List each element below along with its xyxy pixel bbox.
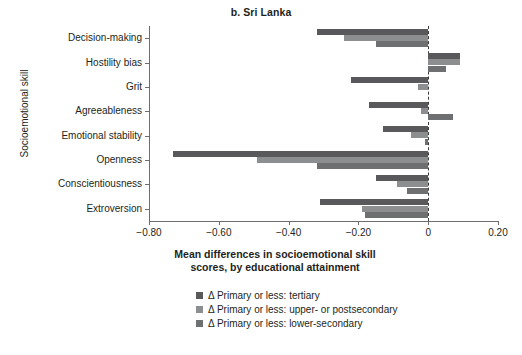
y-axis-tick [145, 38, 149, 39]
x-axis-tick-label: 0.20 [468, 227, 522, 238]
y-axis-category-label: Agreeableness [0, 105, 142, 116]
bar [421, 108, 428, 114]
x-axis-tick [219, 221, 220, 225]
bar [428, 53, 459, 59]
legend-item: Δ Primary or less: lower-secondary [196, 316, 496, 330]
bar [351, 77, 428, 83]
y-axis-category-label: Extroversion [0, 203, 142, 214]
y-axis-tick [145, 160, 149, 161]
bar [383, 126, 428, 132]
x-axis-tick [428, 221, 429, 225]
y-axis-tick [145, 136, 149, 137]
category-row: Decision-making [149, 26, 498, 50]
bar [428, 66, 445, 72]
bar [425, 139, 428, 145]
y-axis-category-label: Hostility bias [0, 57, 142, 68]
legend-label: Δ Primary or less: lower-secondary [208, 318, 363, 329]
bar [428, 59, 459, 65]
x-axis-title-line-1: Mean differences in socioemotional skill [110, 248, 440, 261]
bar [365, 212, 428, 218]
x-axis-tick-label: 0 [398, 227, 458, 238]
category-row: Agreeableness [149, 99, 498, 123]
y-axis-category-label: Emotional stability [0, 130, 142, 141]
y-axis-category-label: Grit [0, 81, 142, 92]
bar [369, 102, 428, 108]
category-row: Extroversion [149, 197, 498, 221]
bar [376, 41, 428, 47]
category-row: Hostility bias [149, 50, 498, 74]
y-axis-tick [145, 63, 149, 64]
chart-legend: Δ Primary or less: tertiaryΔ Primary or … [196, 288, 496, 330]
x-axis-tick-label: −0.80 [119, 227, 179, 238]
x-axis-tick [149, 221, 150, 225]
y-axis-category-label: Decision-making [0, 32, 142, 43]
bar [418, 84, 428, 90]
chart-title: b. Sri Lanka [0, 6, 522, 18]
legend-item: Δ Primary or less: upper- or postseconda… [196, 302, 496, 316]
bar [257, 157, 428, 163]
y-axis-tick [145, 209, 149, 210]
category-row: Grit [149, 75, 498, 99]
y-axis-tick [145, 184, 149, 185]
bar [317, 29, 429, 35]
y-axis-tick [145, 111, 149, 112]
legend-label: Δ Primary or less: tertiary [208, 290, 320, 301]
bar [362, 206, 428, 212]
bar [320, 199, 428, 205]
x-axis-tick-label: −0.60 [189, 227, 249, 238]
x-axis-tick-label: −0.40 [259, 227, 319, 238]
category-row: Openness [149, 148, 498, 172]
bar [344, 35, 428, 41]
x-axis-title-line-2: scores, by educational attainment [110, 261, 440, 274]
category-row: Emotional stability [149, 124, 498, 148]
x-axis-title: Mean differences in socioemotional skill… [110, 248, 440, 274]
legend-swatch-icon [196, 320, 203, 327]
legend-swatch-icon [196, 292, 203, 299]
category-row: Conscientiousness [149, 172, 498, 196]
y-axis-tick [145, 87, 149, 88]
y-axis-category-label: Conscientiousness [0, 178, 142, 189]
bar [428, 114, 452, 120]
bar [173, 151, 428, 157]
plot-area: Decision-makingHostility biasGritAgreeab… [149, 26, 498, 221]
y-axis-category-label: Openness [0, 154, 142, 165]
x-axis-tick [358, 221, 359, 225]
legend-label: Δ Primary or less: upper- or postseconda… [208, 304, 398, 315]
bar [411, 132, 428, 138]
bar [397, 181, 428, 187]
legend-swatch-icon [196, 306, 203, 313]
x-axis-line [149, 221, 498, 222]
legend-item: Δ Primary or less: tertiary [196, 288, 496, 302]
x-axis-tick-label: −0.20 [328, 227, 388, 238]
bar [376, 175, 428, 181]
bar [407, 188, 428, 194]
x-axis-tick [498, 221, 499, 225]
chart-figure: b. Sri Lanka Socioemotional skill Decisi… [0, 0, 522, 355]
bar [317, 163, 429, 169]
x-axis-tick [289, 221, 290, 225]
